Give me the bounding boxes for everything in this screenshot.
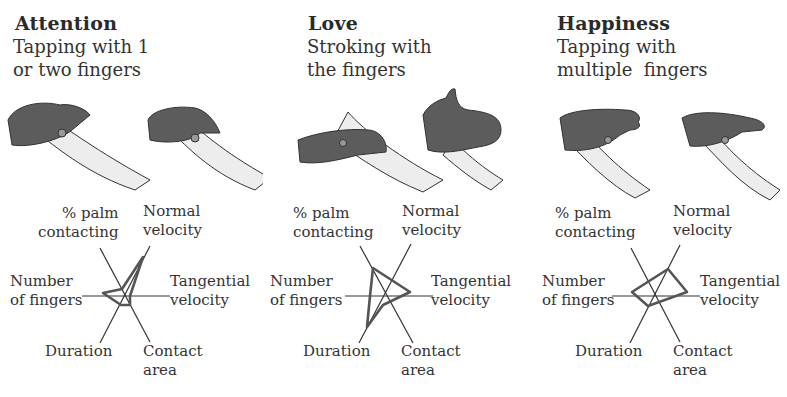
radar-chart-love	[345, 244, 433, 343]
axis-label-tangential: Tangential velocity	[431, 272, 511, 310]
hand-illustration-5	[560, 109, 650, 198]
axis-label-fingers: Number of fingers	[10, 272, 82, 310]
axis-label-palm: % palm contacting	[38, 204, 119, 242]
axis-label-contact: Contact area	[673, 342, 733, 380]
axis-label-tangential: Tangential velocity	[170, 272, 250, 310]
hand-illustration-6	[682, 113, 780, 200]
axis-label-duration: Duration	[45, 342, 112, 361]
axis-label-normal: Normal velocity	[673, 202, 732, 240]
axis-label-contact: Contact area	[143, 342, 203, 380]
hand-illustration-4	[423, 89, 503, 190]
hand-illustration-3	[298, 112, 443, 192]
hand-illustration-2	[148, 107, 263, 190]
hand-illustration-1	[8, 103, 150, 190]
axis-label-normal: Normal velocity	[402, 202, 461, 240]
axis-label-palm: % palm contacting	[293, 204, 374, 242]
panel-happiness: Happiness Tapping with multiple fingers …	[530, 0, 787, 397]
axis-label-fingers: Number of fingers	[270, 272, 342, 310]
love-illustration	[263, 0, 530, 397]
attention-illustration	[0, 0, 263, 397]
axis-label-duration: Duration	[303, 342, 370, 361]
radar-chart-happiness	[612, 245, 700, 343]
axis-label-tangential: Tangential velocity	[700, 272, 780, 310]
axis-label-palm: % palm contacting	[555, 204, 636, 242]
panel-love: Love Stroking with the fingers % palm co…	[263, 0, 530, 397]
radar-chart-attention	[82, 246, 170, 343]
axis-label-normal: Normal velocity	[143, 202, 202, 240]
axis-label-fingers: Number of fingers	[542, 272, 614, 310]
happiness-illustration	[530, 0, 787, 397]
panel-attention: Attention Tapping with 1 or two fingers …	[0, 0, 263, 397]
axis-label-duration: Duration	[575, 342, 642, 361]
axis-label-contact: Contact area	[401, 342, 461, 380]
